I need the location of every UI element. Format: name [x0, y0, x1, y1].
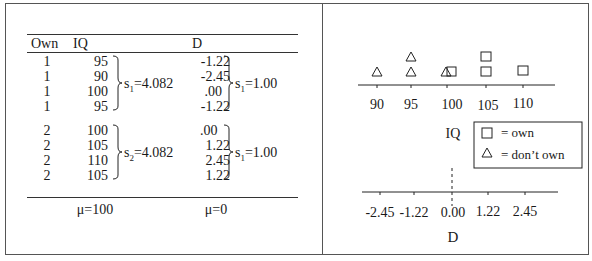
- square-icon: [482, 128, 492, 138]
- triangle-icon: [406, 52, 416, 61]
- triangle-icon: [482, 148, 492, 157]
- d-axis-label: D: [448, 230, 459, 244]
- iq-tick-label: 110: [513, 97, 533, 111]
- d-tick-label: 2.45: [513, 205, 538, 219]
- d-tick-label: 1.22: [476, 205, 501, 219]
- d-tick-label: -1.22: [399, 206, 428, 220]
- iq-tick-label: 95: [404, 98, 418, 112]
- iq-tick-label: 100: [442, 98, 463, 112]
- iq-tick-label: 90: [370, 98, 384, 112]
- d-tick-label: 0.00: [441, 206, 466, 220]
- triangle-icon: [406, 67, 416, 76]
- legend-dont-own-label: = don’t own: [501, 148, 564, 162]
- iq-tick-label: 105: [478, 99, 499, 113]
- legend-own-label: = own: [501, 126, 534, 140]
- d-tick-label: -2.45: [365, 206, 394, 220]
- triangle-icon: [372, 67, 382, 76]
- iq-axis-label: IQ: [446, 127, 461, 141]
- square-icon: [481, 67, 491, 76]
- square-icon: [518, 66, 528, 75]
- square-icon: [481, 52, 491, 61]
- triangle-icon: [441, 67, 451, 76]
